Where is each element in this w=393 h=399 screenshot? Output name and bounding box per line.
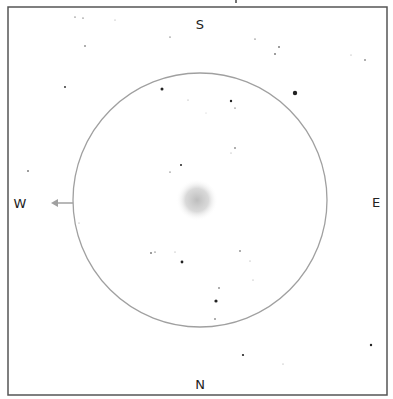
- star: [242, 354, 244, 356]
- star: [293, 91, 297, 95]
- star: [274, 53, 276, 55]
- target-object-glow: [176, 179, 218, 221]
- star: [351, 55, 352, 56]
- compass-label-west: W: [14, 197, 27, 210]
- star: [278, 46, 280, 48]
- star: [115, 20, 116, 21]
- star: [230, 100, 232, 102]
- star: [161, 88, 164, 91]
- star: [254, 38, 255, 39]
- star: [283, 364, 284, 365]
- star: [27, 170, 29, 172]
- star: [150, 252, 152, 254]
- star: [218, 287, 219, 288]
- star: [370, 344, 372, 346]
- star: [234, 147, 235, 148]
- star: [84, 45, 85, 46]
- star-chart: [0, 0, 393, 399]
- star: [250, 261, 251, 262]
- star: [364, 59, 365, 60]
- star: [214, 318, 215, 319]
- star: [231, 153, 232, 154]
- star: [234, 107, 235, 108]
- star: [64, 86, 66, 88]
- direction-arrow-icon: [51, 199, 73, 207]
- star: [253, 280, 254, 281]
- star: [154, 251, 155, 252]
- star: [169, 36, 170, 37]
- star: [214, 299, 217, 302]
- star: [206, 113, 207, 114]
- star: [180, 164, 182, 166]
- star: [239, 250, 240, 251]
- star: [169, 171, 170, 172]
- star: [74, 16, 75, 17]
- star: [181, 261, 184, 264]
- compass-label-north: N: [195, 378, 205, 391]
- compass-label-east: E: [372, 196, 380, 209]
- star: [175, 252, 176, 253]
- compass-label-south: S: [196, 18, 204, 31]
- star: [188, 100, 189, 101]
- star: [82, 17, 83, 18]
- star: [79, 223, 80, 224]
